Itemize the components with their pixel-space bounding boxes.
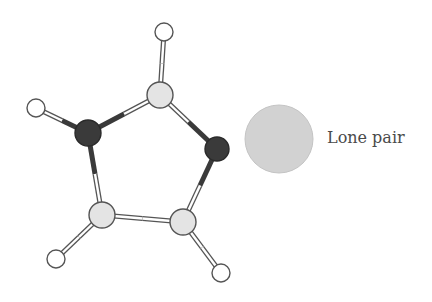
lone-pair-label: Lone pair (327, 128, 405, 147)
hydrogen-atom (27, 99, 45, 117)
nitrogen-atom (75, 120, 101, 146)
bonds (36, 32, 221, 273)
carbon-atom (89, 202, 115, 228)
nitrogen-atom (205, 137, 229, 161)
hydrogen-atom (155, 23, 173, 41)
lone-pair-orbital (245, 105, 313, 173)
molecule-diagram (0, 0, 432, 302)
hydrogen-atom (47, 250, 65, 268)
hydrogen-atom (212, 264, 230, 282)
carbon-atom (147, 82, 173, 108)
carbon-atom (170, 209, 196, 235)
